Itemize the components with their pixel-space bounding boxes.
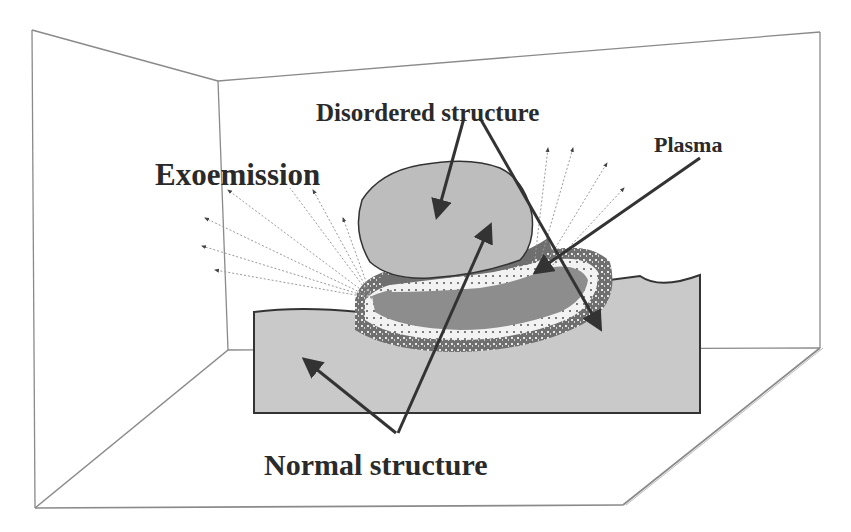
diagram-canvas: Disordered structure Plasma Exoemission …: [0, 0, 851, 532]
plasma-arrow: [536, 158, 700, 272]
label-plasma: Plasma: [654, 134, 722, 156]
disordered-cap: [358, 161, 532, 278]
label-disordered-structure: Disordered structure: [316, 100, 539, 125]
label-exoemission: Exoemission: [155, 159, 320, 190]
label-normal-structure: Normal structure: [264, 450, 488, 480]
